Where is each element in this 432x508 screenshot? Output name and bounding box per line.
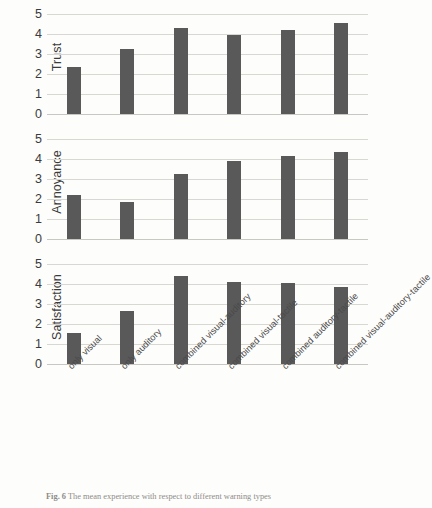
bar-group (47, 14, 368, 114)
y-tick-label: 5 (28, 133, 42, 146)
y-tick-label: 3 (28, 173, 42, 186)
y-tick-label: 3 (28, 298, 42, 311)
axis-baseline (47, 114, 368, 115)
y-tick-label: 5 (28, 8, 42, 21)
plot-area-annoyance: 012345 (47, 139, 368, 239)
axis-baseline (47, 239, 368, 240)
chart-panel-annoyance: Annoyance 012345 (0, 139, 376, 240)
bar (334, 152, 348, 239)
y-tick-label: 0 (28, 358, 42, 371)
y-tick-label: 4 (28, 28, 42, 41)
bar (227, 35, 241, 114)
figure-caption: Fig. 6 The mean experience with respect … (46, 492, 366, 503)
plot-area-trust: 012345 (47, 14, 368, 114)
y-tick-label: 4 (28, 278, 42, 291)
y-tick-label: 2 (28, 68, 42, 81)
bar (120, 49, 134, 114)
y-tick-label: 2 (28, 193, 42, 206)
bar (334, 23, 348, 114)
chart-panel-trust: Trust 012345 (0, 14, 376, 115)
bar (120, 202, 134, 239)
bar (174, 28, 188, 114)
bar (174, 174, 188, 239)
y-tick-label: 0 (28, 233, 42, 246)
y-tick-label: 3 (28, 48, 42, 61)
y-tick-label: 0 (28, 108, 42, 121)
y-tick-label: 2 (28, 318, 42, 331)
x-axis-labels: only visualonly auditorycombined visual-… (47, 358, 376, 478)
y-tick-label: 1 (28, 338, 42, 351)
bar (281, 156, 295, 239)
bar (227, 161, 241, 239)
y-tick-label: 1 (28, 213, 42, 226)
y-tick-label: 5 (28, 258, 42, 271)
figure-caption-label: Fig. 6 (46, 492, 66, 501)
bar-group (47, 139, 368, 239)
y-tick-label: 4 (28, 153, 42, 166)
bar (281, 30, 295, 114)
bar (67, 67, 81, 114)
bar (67, 195, 81, 239)
figure-caption-text: The mean experience with respect to diff… (68, 492, 271, 501)
y-tick-label: 1 (28, 88, 42, 101)
